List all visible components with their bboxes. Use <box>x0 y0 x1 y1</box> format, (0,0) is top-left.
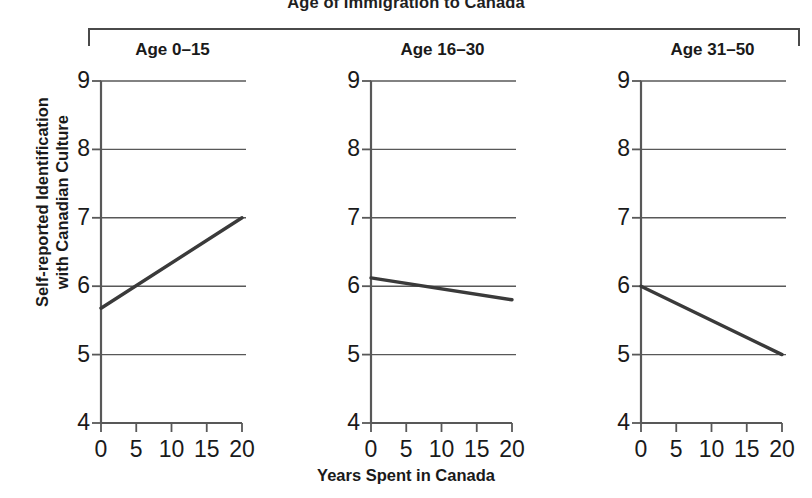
y-axis-ticks <box>632 81 641 423</box>
ytick-label-4: 4 <box>330 411 360 434</box>
xtick-label-10: 10 <box>426 438 458 461</box>
ytick-label-9: 9 <box>330 69 360 92</box>
xtick-label-20: 20 <box>496 438 528 461</box>
x-axis-ticks <box>641 423 782 432</box>
plot-area-age-31-50 <box>640 78 790 426</box>
xtick-label-15: 15 <box>461 438 493 461</box>
ytick-label-8: 8 <box>330 137 360 160</box>
chart-figure: Age of Immigration to Canada Age 0–15 Ag… <box>0 0 812 498</box>
ytick-label-7: 7 <box>600 206 630 229</box>
y-axis-title: Self-reported Identification with Canadi… <box>32 32 72 372</box>
x-axis-ticks <box>371 423 512 432</box>
data-line-age-31-50 <box>641 286 782 354</box>
plot-area-age-16-30 <box>370 78 520 426</box>
y-axis-ticks <box>92 81 101 423</box>
panel-title-age-0-15: Age 0–15 <box>100 40 245 60</box>
xtick-label-15: 15 <box>731 438 763 461</box>
panel-title-age-16-30: Age 16–30 <box>370 40 515 60</box>
xtick-label-20: 20 <box>766 438 798 461</box>
xtick-label-0: 0 <box>625 438 657 461</box>
data-line-age-16-30 <box>371 278 512 300</box>
ytick-label-5: 5 <box>330 343 360 366</box>
x-axis-title: Years Spent in Canada <box>0 466 812 485</box>
gridlines <box>370 81 516 355</box>
ytick-label-6: 6 <box>600 274 630 297</box>
panel-title-age-31-50: Age 31–50 <box>640 40 785 60</box>
xtick-label-5: 5 <box>660 438 692 461</box>
data-line-age-0-15 <box>101 218 242 308</box>
ytick-label-9: 9 <box>600 69 630 92</box>
ytick-label-7: 7 <box>330 206 360 229</box>
ytick-label-6: 6 <box>330 274 360 297</box>
ytick-label-4: 4 <box>600 411 630 434</box>
ytick-label-8: 8 <box>600 137 630 160</box>
xtick-label-5: 5 <box>390 438 422 461</box>
ytick-label-5: 5 <box>600 343 630 366</box>
xtick-label-5: 5 <box>120 438 152 461</box>
ytick-label-4: 4 <box>60 411 90 434</box>
gridlines <box>100 81 246 355</box>
xtick-label-0: 0 <box>85 438 117 461</box>
xtick-label-10: 10 <box>156 438 188 461</box>
x-axis-ticks <box>101 423 242 432</box>
xtick-label-10: 10 <box>696 438 728 461</box>
plot-area-age-0-15 <box>100 78 250 426</box>
xtick-label-0: 0 <box>355 438 387 461</box>
chart-super-title: Age of Immigration to Canada <box>0 0 812 12</box>
y-axis-title-line-1: Self-reported Identification <box>32 32 52 372</box>
xtick-label-20: 20 <box>226 438 258 461</box>
xtick-label-15: 15 <box>191 438 223 461</box>
y-axis-title-line-2: with Canadian Culture <box>52 32 72 372</box>
y-axis-ticks <box>362 81 371 423</box>
gridlines <box>640 81 786 355</box>
